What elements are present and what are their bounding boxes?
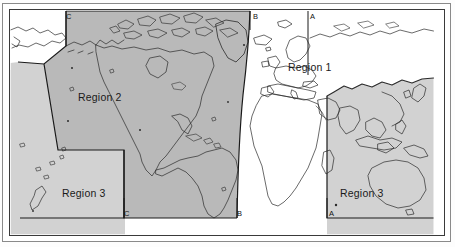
world-region-map-figure: Region 1 Region 2 Region 3 Region 3 C B …	[0, 0, 455, 247]
region-label-region-2: Region 2	[78, 91, 122, 103]
coast-scandinavia	[286, 36, 310, 62]
marker-b-bottom: B	[237, 209, 242, 218]
coast-russia-north	[310, 29, 434, 38]
marker-a-top: A	[310, 12, 315, 21]
coast-africa	[250, 94, 322, 206]
coast-ireland	[262, 61, 269, 67]
marker-a-bottom: A	[329, 209, 334, 218]
map-canvas	[0, 0, 455, 247]
coast-iberia	[261, 86, 274, 97]
marker-c-bottom: C	[124, 209, 129, 218]
coast-svalbard	[278, 20, 292, 28]
coast-iceland	[254, 35, 272, 45]
marker-c-top: C	[66, 12, 71, 21]
coast-russia-arctic-isles	[334, 21, 399, 31]
coast-black-sea	[303, 81, 318, 88]
region-label-region-3-right: Region 3	[340, 187, 384, 199]
coast-british-isles	[268, 56, 280, 68]
marker-b-top: B	[253, 12, 258, 21]
region-label-region-3-left: Region 3	[62, 187, 106, 199]
coast-faroe	[266, 47, 271, 51]
region-label-region-1: Region 1	[288, 61, 332, 73]
